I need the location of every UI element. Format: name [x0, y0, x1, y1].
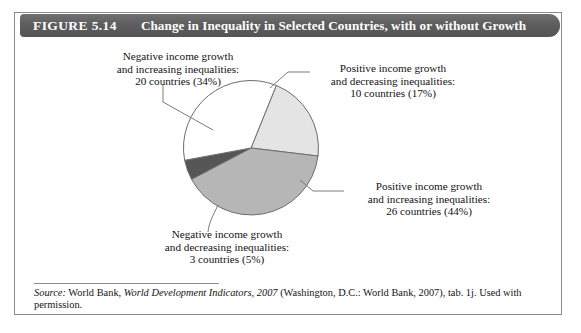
callout-negative-decreasing-line2: and decreasing inequalities: [132, 241, 322, 254]
callout-positive-decreasing: Positive income growth and decreasing in… [303, 62, 483, 100]
callout-negative-decreasing: Negative income growth and decreasing in… [132, 228, 322, 266]
callout-negative-increasing-line2: and increasing inequalities: [88, 63, 268, 76]
callout-positive-increasing-value: 26 countries (44%) [329, 205, 529, 218]
callout-negative-decreasing-value: 3 countries (5%) [132, 253, 322, 266]
figure-header-banner: FIGURE 5.14 Change in Inequality in Sele… [20, 14, 560, 37]
figure-container: FIGURE 5.14 Change in Inequality in Sele… [0, 0, 581, 333]
source-publication-title: World Development Indicators, 2007 [124, 287, 278, 298]
source-pre-title: World Bank, [66, 287, 124, 298]
callout-positive-decreasing-line2: and decreasing inequalities: [303, 75, 483, 88]
source-note: Source: World Bank, World Development In… [34, 287, 544, 312]
source-divider [34, 283, 219, 284]
callout-positive-increasing-line1: Positive income growth [329, 180, 529, 193]
callout-positive-decreasing-line1: Positive income growth [303, 62, 483, 75]
callout-negative-increasing: Negative income growth and increasing in… [88, 50, 268, 88]
figure-number: FIGURE 5.14 [20, 18, 117, 34]
callout-negative-decreasing-line1: Negative income growth [132, 228, 322, 241]
callout-positive-decreasing-value: 10 countries (17%) [303, 87, 483, 100]
source-label: Source: [34, 287, 66, 298]
callout-positive-increasing-line2: and increasing inequalities: [329, 193, 529, 206]
callout-negative-increasing-line1: Negative income growth [88, 50, 268, 63]
pie-chart-area: Negative income growth and increasing in… [14, 38, 562, 278]
callout-negative-increasing-value: 20 countries (34%) [88, 75, 268, 88]
callout-positive-increasing: Positive income growth and increasing in… [329, 180, 529, 218]
figure-title: Change in Inequality in Selected Countri… [117, 18, 526, 34]
